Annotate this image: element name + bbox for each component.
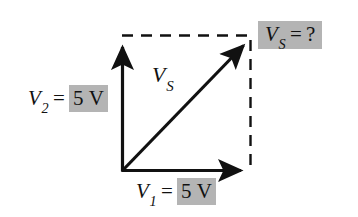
v1-value-highlight: 5 V bbox=[177, 178, 216, 205]
v1-subscript: 1 bbox=[150, 193, 157, 209]
vs-resultant-label: VS bbox=[152, 64, 174, 86]
v1-label: V1=5 V bbox=[136, 181, 216, 202]
v1-equals-sign: = bbox=[161, 179, 173, 203]
vs-box-value: ? bbox=[306, 22, 316, 46]
vs-box-equals-sign: = bbox=[290, 22, 302, 46]
vector-diagram: V2=5 V V1=5 V VS VS=? bbox=[0, 0, 358, 217]
vs-subscript: S bbox=[166, 78, 174, 94]
v2-equals-sign: = bbox=[53, 86, 65, 110]
vs-resultant-arrow bbox=[123, 46, 244, 171]
vs-question-box: VS=? bbox=[258, 21, 322, 49]
vs-box-variable: V bbox=[265, 22, 278, 46]
vs-variable: V bbox=[152, 62, 166, 87]
v2-subscript: 2 bbox=[42, 100, 49, 116]
vs-box-subscript: S bbox=[279, 36, 286, 52]
v2-variable: V bbox=[28, 86, 41, 110]
v1-variable: V bbox=[136, 179, 149, 203]
v2-value-highlight: 5 V bbox=[69, 85, 108, 112]
v2-label: V2=5 V bbox=[28, 88, 108, 109]
